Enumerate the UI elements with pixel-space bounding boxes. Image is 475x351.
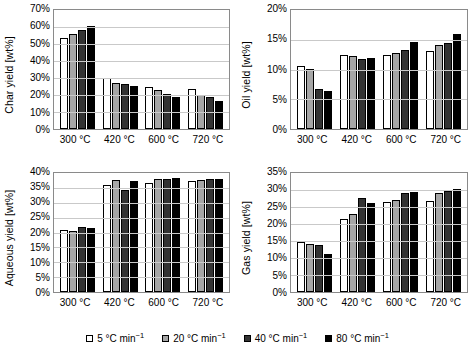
x-axis-ticks-char: 300 °C420 °C600 °C720 °C [53, 132, 230, 148]
gridline [54, 78, 229, 79]
gridline [54, 27, 229, 28]
bar [60, 230, 68, 292]
legend-label: 80 °C min−1 [336, 333, 389, 344]
bar [383, 55, 391, 129]
x-tick-label: 420 °C [335, 132, 380, 148]
bar [130, 86, 138, 129]
bar [349, 56, 357, 129]
legend-label: 40 °C min−1 [255, 333, 308, 344]
y-tick-label: 25% [30, 212, 50, 222]
y-tick-label: 30% [30, 197, 50, 207]
y-tick-label: 15% [267, 236, 287, 246]
legend-item: 80 °C min−1 [325, 333, 389, 344]
y-tick-label: 30% [30, 73, 50, 83]
figure-pyrolysis-yields: Char yield [wt%] 0%10%20%30%40%50%60%70%… [0, 0, 475, 351]
bar [324, 91, 332, 129]
x-tick-label: 720 °C [186, 295, 230, 311]
bar [197, 180, 205, 292]
gridline [54, 44, 229, 45]
gridline [54, 61, 229, 62]
bar [383, 202, 391, 292]
x-axis-ticks-aqueous: 300 °C420 °C600 °C720 °C [53, 295, 230, 311]
gridline [54, 247, 229, 248]
y-tick-label: 35% [30, 182, 50, 192]
bar [215, 179, 223, 292]
bar [358, 198, 366, 292]
bar [188, 181, 196, 292]
x-tick-label: 600 °C [142, 295, 186, 311]
y-tick-label: 0% [36, 125, 50, 135]
gridline [291, 224, 467, 225]
x-tick-label: 600 °C [142, 132, 186, 148]
y-tick-label: 0% [273, 125, 287, 135]
bar [392, 53, 400, 129]
y-axis-ticks-gas: 0%5%10%15%20%25%30%35% [253, 172, 289, 293]
bar [367, 203, 375, 292]
y-tick-label: 25% [267, 202, 287, 212]
plot-area-char [53, 9, 230, 130]
legend-label-exponent: −1 [299, 330, 308, 339]
gridline [291, 275, 467, 276]
y-tick-label: 20% [30, 228, 50, 238]
x-tick-label: 300 °C [53, 295, 97, 311]
bar [145, 183, 153, 292]
gridline [54, 262, 229, 263]
gridline [291, 70, 467, 71]
x-tick-label: 600 °C [379, 295, 424, 311]
bar [145, 87, 153, 129]
bar [121, 84, 129, 129]
chart-panel-oil-yield: Oil yield [wt%] 0%5%10%15%20% 300 °C420 … [237, 0, 475, 163]
bar [215, 101, 223, 129]
y-tick-label: 10% [30, 108, 50, 118]
bar [69, 34, 77, 129]
legend-item: 20 °C min−1 [162, 333, 226, 344]
y-tick-label: 10% [267, 65, 287, 75]
bar [453, 34, 461, 129]
chart-panel-gas-yield: Gas yield [wt%] 0%5%10%15%20%25%30%35% 3… [237, 163, 475, 326]
x-tick-label: 720 °C [424, 295, 469, 311]
bar [206, 179, 214, 292]
bar [163, 179, 171, 292]
bar [401, 193, 409, 292]
bar [154, 179, 162, 292]
chart-panel-aqueous-yield: Aqueous yield [wt%] 0%5%10%15%20%25%30%3… [0, 163, 237, 326]
bar [78, 227, 86, 292]
y-tick-label: 70% [30, 4, 50, 14]
x-tick-label: 420 °C [335, 295, 380, 311]
x-tick-label: 300 °C [290, 132, 335, 148]
x-axis-ticks-oil: 300 °C420 °C600 °C720 °C [290, 132, 468, 148]
bar [426, 51, 434, 129]
y-tick-label: 35% [267, 167, 287, 177]
bar [60, 38, 68, 129]
bar [426, 201, 434, 292]
legend-label-exponent: −1 [380, 330, 389, 339]
bar [297, 66, 305, 129]
y-tick-label: 50% [30, 39, 50, 49]
legend-swatch-icon [162, 335, 169, 342]
y-tick-label: 5% [273, 271, 287, 281]
gridline [54, 95, 229, 96]
legend-swatch-icon [244, 335, 251, 342]
bar [78, 30, 86, 129]
x-tick-label: 420 °C [97, 132, 141, 148]
y-axis-ticks-aqueous: 0%5%10%15%20%25%30%35%40% [16, 172, 52, 293]
y-tick-label: 15% [30, 243, 50, 253]
y-tick-label: 30% [267, 184, 287, 194]
bar [349, 214, 357, 292]
y-tick-label: 20% [30, 90, 50, 100]
x-tick-label: 300 °C [290, 295, 335, 311]
gridline [291, 258, 467, 259]
bar [444, 43, 452, 129]
legend-label: 20 °C min−1 [173, 333, 226, 344]
chart-legend: 5 °C min−120 °C min−140 °C min−180 °C mi… [0, 328, 475, 348]
bar [340, 55, 348, 129]
y-tick-label: 0% [273, 288, 287, 298]
legend-item: 5 °C min−1 [86, 333, 144, 344]
y-axis-ticks-char: 0%10%20%30%40%50%60%70% [16, 9, 52, 130]
panel-grid: Char yield [wt%] 0%10%20%30%40%50%60%70%… [0, 0, 475, 326]
legend-swatch-icon [325, 335, 332, 342]
y-tick-label: 20% [267, 4, 287, 14]
bar [112, 83, 120, 129]
gridline [291, 207, 467, 208]
y-tick-label: 5% [36, 273, 50, 283]
